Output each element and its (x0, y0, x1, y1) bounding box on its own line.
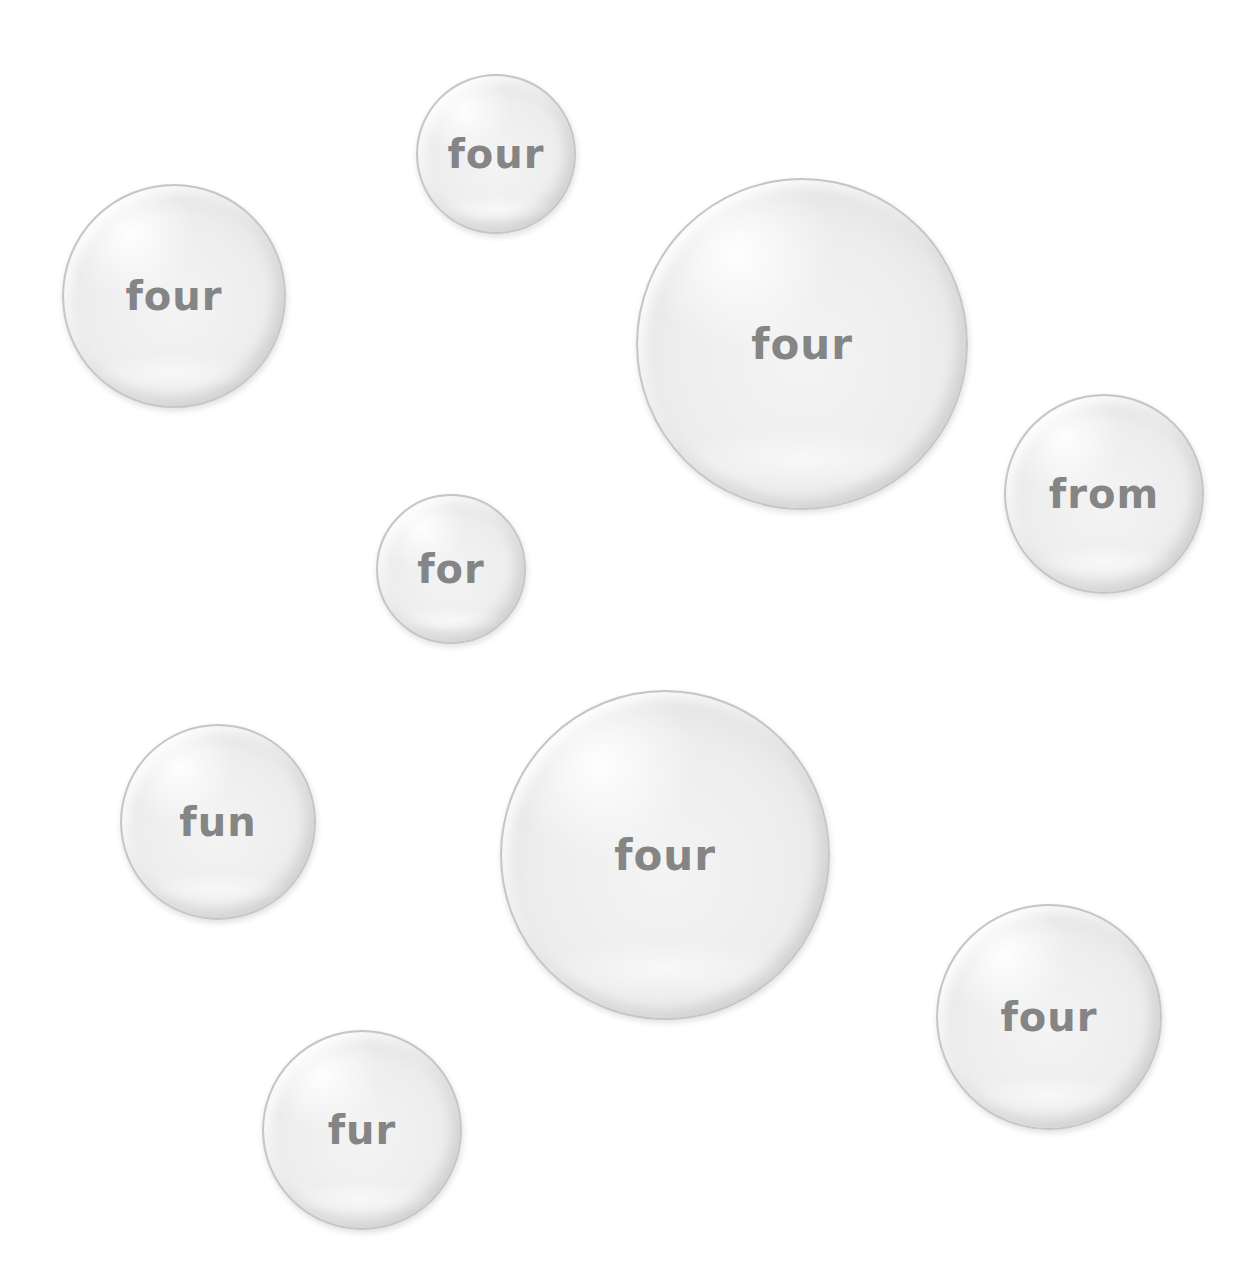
word-bubble-four-large-center[interactable]: four (500, 690, 830, 1020)
word-bubble-four-top[interactable]: four (416, 74, 576, 234)
bubble-word: four (751, 320, 853, 369)
word-bubble-from[interactable]: from (1004, 394, 1204, 594)
bubble-word: for (417, 546, 485, 592)
bubble-word: four (447, 131, 544, 177)
bubble-word: four (125, 273, 222, 319)
word-bubble-fur[interactable]: fur (262, 1030, 462, 1230)
word-bubble-fun[interactable]: fun (120, 724, 316, 920)
bubble-word: fur (328, 1107, 397, 1153)
bubble-word: from (1049, 471, 1159, 517)
bubble-word: four (614, 831, 716, 880)
bubble-word: fun (179, 799, 256, 845)
word-bubble-four-large-top[interactable]: four (636, 178, 968, 510)
bubble-word: four (1000, 994, 1097, 1040)
word-bubble-four-left[interactable]: four (62, 184, 286, 408)
word-bubble-for[interactable]: for (376, 494, 526, 644)
word-bubble-four-right[interactable]: four (936, 904, 1162, 1130)
